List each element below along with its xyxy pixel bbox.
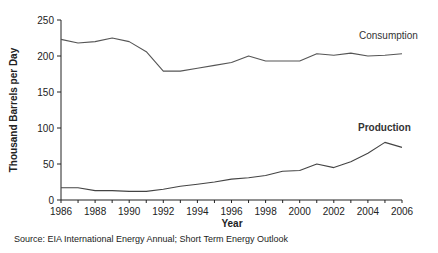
y-tick-label: 250 [37,15,54,26]
x-tick-label: 2002 [323,206,346,217]
x-axis: 1986198819901992199419961998200020022004… [50,200,414,217]
x-tick-label: 2006 [391,206,414,217]
x-tick-label: 1990 [118,206,141,217]
production-label: Production [358,122,411,133]
x-tick-label: 1986 [50,206,73,217]
y-tick-label: 150 [37,87,54,98]
y-axis: 050100150200250 [37,15,61,206]
x-tick-label: 1996 [220,206,243,217]
x-tick-label: 1994 [186,206,209,217]
x-tick-label: 2004 [357,206,380,217]
y-axis-title: Thousand Barrels per Day [8,47,19,172]
y-tick-label: 0 [48,195,54,206]
consumption-label: Consumption [359,30,418,41]
x-tick-label: 1988 [84,206,107,217]
x-tick-label: 1998 [254,206,277,217]
y-tick-label: 100 [37,123,54,134]
y-tick-label: 50 [43,159,55,170]
x-tick-label: 1992 [152,206,175,217]
line-chart: 050100150200250 198619881990199219941996… [0,0,438,253]
plot-lines [61,38,402,191]
production-line [61,142,402,191]
consumption-line [61,38,402,71]
source-note: Source: EIA International Energy Annual;… [14,234,288,244]
y-tick-label: 200 [37,51,54,62]
x-axis-title: Year [221,218,242,229]
x-tick-label: 2000 [289,206,312,217]
